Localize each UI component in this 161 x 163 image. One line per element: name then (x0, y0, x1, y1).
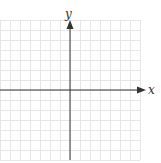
coordinate-plane: x y (0, 0, 161, 163)
x-axis-label: x (148, 83, 155, 97)
y-axis-label: y (64, 7, 72, 21)
y-axis-arrow-icon (67, 20, 74, 29)
x-axis-arrow-icon (137, 87, 146, 94)
